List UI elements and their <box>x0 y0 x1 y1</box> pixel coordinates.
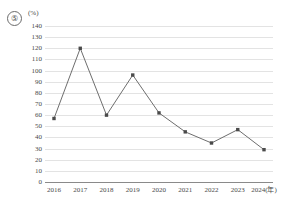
y-axis-unit-label: (%) <box>28 9 39 17</box>
y-tick-label: 100 <box>32 67 43 75</box>
y-tick-label: 120 <box>32 44 43 52</box>
y-tick-label: 50 <box>35 122 42 130</box>
axis-baseline <box>45 182 273 183</box>
y-tick-label: 20 <box>35 156 42 164</box>
x-tick-label: 2024(年) <box>251 186 277 194</box>
series-polyline <box>54 48 264 149</box>
data-point-marker <box>131 73 134 76</box>
y-tick-label: 0 <box>39 178 43 186</box>
x-tick-label: 2016 <box>47 186 61 194</box>
y-tick-label: 140 <box>32 22 43 30</box>
data-point-marker <box>236 128 239 131</box>
series-markers <box>52 47 265 152</box>
y-tick-label: 80 <box>35 89 42 97</box>
x-tick-label: 2019 <box>126 186 140 194</box>
y-tick-label: 60 <box>35 111 42 119</box>
y-tick-label: 70 <box>35 100 42 108</box>
x-tick-label: 2020 <box>152 186 166 194</box>
x-tick-label: 2021 <box>178 186 192 194</box>
chart-figure: ⑤ (%) 1401301201101009080706050403020100… <box>0 0 284 204</box>
y-tick-label: 130 <box>32 33 43 41</box>
line-series <box>45 26 273 182</box>
data-point-marker <box>210 141 213 144</box>
data-point-marker <box>105 113 108 116</box>
data-point-marker <box>262 148 265 151</box>
y-tick-label: 40 <box>35 133 42 141</box>
figure-number-badge: ⑤ <box>7 11 22 26</box>
data-point-marker <box>52 117 55 120</box>
x-tick-label: 2017 <box>73 186 87 194</box>
y-tick-label: 10 <box>35 167 42 175</box>
y-tick-label: 110 <box>32 55 42 63</box>
y-tick-label: 90 <box>35 78 42 86</box>
plot-area: 1401301201101009080706050403020100 20162… <box>45 26 273 182</box>
x-tick-label: 2022 <box>205 186 219 194</box>
data-point-marker <box>157 111 160 114</box>
y-tick-label: 30 <box>35 145 42 153</box>
x-tick-label: 2018 <box>100 186 114 194</box>
data-point-marker <box>79 47 82 50</box>
data-point-marker <box>184 130 187 133</box>
x-tick-label: 2023 <box>231 186 245 194</box>
